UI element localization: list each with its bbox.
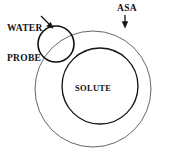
water-probe-label-line1: WATER xyxy=(7,23,43,33)
solute-label: SOLUTE xyxy=(75,83,111,93)
water-probe-label-line2: PROBE xyxy=(7,53,43,63)
water-probe-arrow xyxy=(41,16,53,28)
asa-label: ASA xyxy=(117,3,137,13)
water-probe-label: WATER PROBE xyxy=(7,3,43,73)
asa-arrow xyxy=(122,15,128,28)
